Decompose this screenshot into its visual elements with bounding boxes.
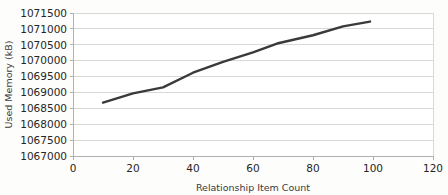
y-tick-label-1068500: 1068500 (20, 102, 67, 114)
x-tick-label-100: 100 (363, 162, 383, 174)
chart-container: 1067000106750010680001068500106900010695… (0, 0, 448, 195)
y-axis-title: Used Memory (kB) (3, 41, 14, 129)
y-tick-label-1068000: 1068000 (20, 118, 67, 130)
line-chart: 1067000106750010680001068500106900010695… (0, 0, 448, 195)
x-tick-label-80: 80 (306, 162, 319, 174)
y-tick-label-1069500: 1069500 (20, 70, 67, 82)
x-tick-label-60: 60 (246, 162, 259, 174)
y-tick-label-1070500: 1070500 (20, 39, 67, 51)
y-tick-label-1071500: 1071500 (20, 7, 67, 19)
y-tick-label-1071000: 1071000 (20, 23, 67, 35)
y-tick-label-1069000: 1069000 (20, 86, 67, 98)
x-axis-title: Relationship Item Count (196, 182, 310, 193)
x-tick-label-20: 20 (126, 162, 139, 174)
y-tick-label-1067000: 1067000 (20, 150, 67, 162)
y-tick-label-1067500: 1067500 (20, 134, 67, 146)
plot-area-background (73, 13, 433, 156)
x-tick-label-120: 120 (423, 162, 443, 174)
x-tick-label-0: 0 (70, 162, 77, 174)
y-tick-label-1070000: 1070000 (20, 54, 67, 66)
x-tick-label-40: 40 (186, 162, 199, 174)
